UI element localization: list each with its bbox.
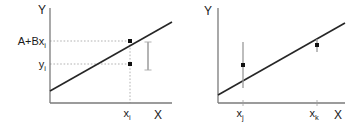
x-axis-label: X [154,108,162,122]
y-axis-label: Y [204,4,212,18]
x-axis-label: X [334,108,342,122]
x-tick-label-i-subscript: i [129,113,131,122]
x-tick-label-j: xj [236,107,244,122]
y-tick-label-observed-subscript: i [44,64,46,73]
x-tick-label-k-subscript: k [315,113,319,122]
panel-residual-diagram: Y X A+Bxi yi xi [0,0,177,127]
y-tick-label-fitted: A+Bxi [18,35,47,50]
y-tick-label-observed: yi [39,58,47,73]
y-axis-label: Y [38,3,46,17]
panel-weighted-points-diagram: Y X xj xk [177,0,354,127]
fitted-value-point [128,39,132,43]
x-tick-label-j-subscript: j [241,113,244,122]
regression-line [50,22,172,91]
regression-figure: Y X A+Bxi yi xi [0,0,354,127]
data-point-k [315,43,319,47]
regression-line [218,23,345,95]
y-tick-label-fitted-text: A+Bx [18,35,45,47]
data-point-j [241,63,245,67]
x-tick-label-k: xk [309,107,319,122]
observed-value-point [128,62,132,66]
y-tick-label-fitted-subscript: i [44,41,46,50]
x-tick-label-i: xi [123,107,131,122]
